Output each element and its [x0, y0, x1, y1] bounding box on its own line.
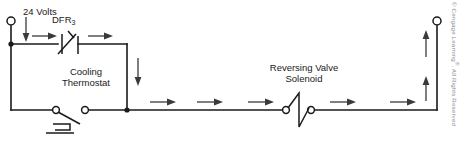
dfr3-nc-slash: [68, 31, 74, 38]
cooling-thermostat-label-line2: Thermostat: [40, 77, 132, 88]
cooling-thermostat-label-line1: Cooling: [46, 66, 126, 77]
flow-arrow-mid-down-icon: [135, 58, 142, 86]
flow-arrow-right-up-1-icon: [423, 76, 430, 101]
flow-arrow-right-up-2-icon: [423, 30, 430, 57]
reversing-valve-solenoid-label-line1: Reversing Valve: [248, 62, 360, 73]
power-terminal-left-icon[interactable]: [7, 17, 15, 25]
current-flow-arrows: [23, 17, 430, 105]
flow-arrow-bottom-1-icon: [150, 99, 176, 106]
junction-dot-bottom-mid-icon: [124, 107, 129, 112]
thermostat-terminal-right: [82, 107, 89, 114]
dfr3-contacts-icon[interactable]: [58, 31, 78, 54]
power-terminal-right-icon[interactable]: [433, 17, 441, 25]
reversing-valve-solenoid-label-line2: Solenoid: [248, 73, 360, 84]
copyright-notice: © Cengage Learning®. All Rights Reserved: [451, 2, 459, 142]
junction-dot-top-left-icon: [8, 41, 13, 46]
flow-arrow-bottom-5-icon: [390, 99, 416, 106]
solenoid-coil-zigzag: [288, 93, 309, 127]
reversing-valve-solenoid-icon[interactable]: [283, 93, 315, 127]
dfr3-label-subscript: 3: [72, 19, 76, 26]
thermostat-open-blade: [58, 112, 80, 124]
circuit-diagram-canvas: 24 Volts DFR3 Cooling Thermostat Reversi…: [0, 0, 462, 143]
flow-arrow-bottom-4-icon: [330, 99, 356, 106]
flow-arrow-bottom-2-icon: [197, 99, 223, 106]
cooling-thermostat-icon[interactable]: [46, 107, 88, 133]
thermostat-bimetal-hook: [53, 124, 70, 130]
copyright-prefix: © Cengage Learning: [451, 2, 458, 62]
flow-arrow-top-1-icon: [32, 33, 57, 40]
copyright-suffix: . All Rights Reserved: [451, 65, 458, 126]
flow-arrow-supply-down-icon: [23, 17, 30, 42]
dfr3-label-text: DFR: [52, 14, 72, 25]
dfr3-label: DFR3: [52, 14, 75, 26]
flow-arrow-bottom-3-icon: [248, 99, 274, 106]
flow-arrow-top-2-icon: [88, 33, 113, 40]
